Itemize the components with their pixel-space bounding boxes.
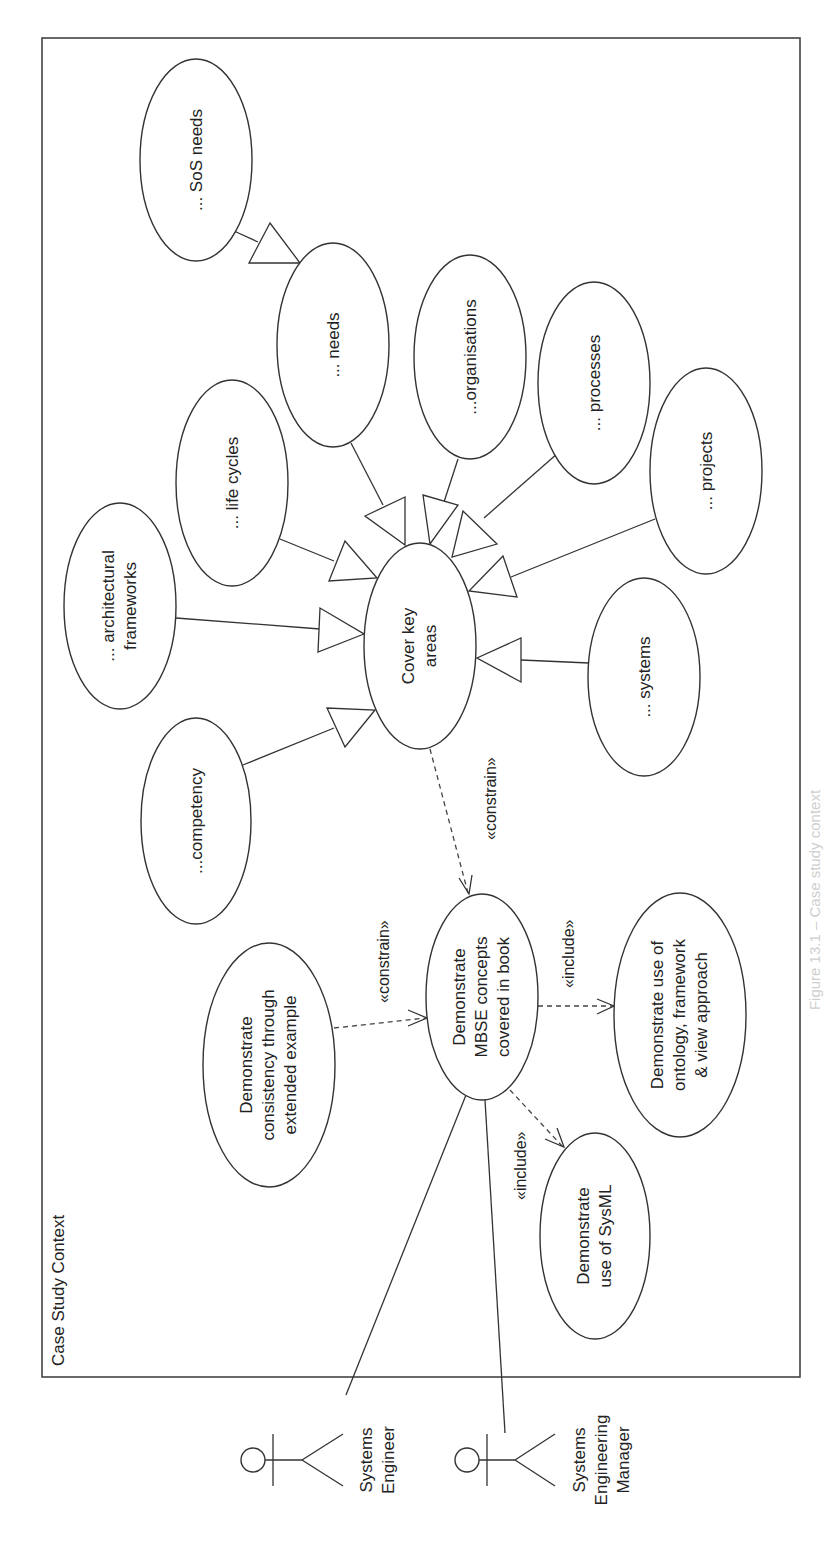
actor-label-line3: Manager	[614, 1426, 633, 1493]
frame-title: Case Study Context	[49, 1215, 68, 1366]
use-case-label: ... processes	[585, 335, 604, 431]
use-case-label-line1: Demonstrate	[237, 1016, 256, 1113]
actor-systems-engineer[interactable]: Systems Engineer	[241, 1426, 398, 1494]
use-case-label: ... projects	[697, 432, 716, 510]
actor-systems-engineering-manager[interactable]: Systems Engineering Manager	[455, 1415, 633, 1506]
constrain-label-cover: «constrain»	[482, 757, 499, 840]
stick-figure-icon	[241, 1434, 343, 1486]
use-case-label-line2: consistency through	[259, 989, 278, 1140]
use-case-label: ... needs	[324, 312, 343, 377]
include-label-sysml: «include»	[512, 1131, 529, 1200]
use-case-organisations[interactable]: ...organisations	[414, 255, 526, 459]
generalization-organisations-to-cover	[423, 459, 458, 544]
use-case-label-line2: use of SysML	[596, 1185, 615, 1288]
stick-figure-icon	[455, 1434, 555, 1486]
use-case-label: ...organisations	[461, 299, 480, 414]
generalization-frameworks-to-cover	[176, 608, 364, 652]
use-case-consistency[interactable]: Demonstrate consistency through extended…	[203, 943, 335, 1187]
use-case-sysml[interactable]: Demonstrate use of SysML	[540, 1133, 650, 1339]
generalization-life-cycles-to-cover	[280, 539, 377, 581]
dependency-mbse-to-ontology	[538, 999, 614, 1014]
use-case-label-line2: areas	[421, 625, 440, 668]
use-case-label: ...competency	[187, 768, 206, 874]
use-case-label-line1: Cover key	[399, 607, 418, 684]
use-case-processes[interactable]: ... processes	[538, 282, 650, 484]
use-case-sos-needs[interactable]: ... SoS needs	[140, 59, 252, 261]
use-case-label-line3: covered in book	[494, 936, 513, 1057]
association-systems-engineering-manager	[485, 1100, 505, 1433]
association-systems-engineer	[346, 1095, 466, 1395]
use-case-ontology[interactable]: Demonstrate use of ontology, framework &…	[614, 893, 746, 1137]
use-case-label-line1: Demonstrate	[450, 948, 469, 1045]
use-case-label-line2: MBSE concepts	[472, 937, 491, 1058]
use-case-label-line1: Demonstrate	[574, 1187, 593, 1284]
use-case-label-line2: ontology, framework	[670, 939, 689, 1091]
dependency-consistency-to-mbse	[334, 1010, 427, 1028]
generalization-competency-to-cover	[243, 708, 375, 765]
use-case-label: ... life cycles	[223, 437, 242, 530]
figure-caption: Figure 13.1 – Case study context	[806, 789, 823, 1010]
generalization-sos-needs-to-needs	[234, 223, 300, 263]
dependency-cover-to-mbse	[430, 749, 472, 894]
use-case-diagram: Case Study Context	[0, 0, 832, 1556]
actor-label-line2: Engineering	[592, 1415, 611, 1506]
use-case-label-line1: Demonstrate use of	[648, 941, 667, 1090]
actor-label-line2: Engineer	[379, 1426, 398, 1494]
use-case-label: ... systems	[635, 636, 654, 717]
actor-label-line1: Systems	[357, 1427, 376, 1492]
generalization-needs-to-cover	[351, 443, 405, 545]
use-case-competency[interactable]: ...competency	[141, 718, 251, 924]
use-case-mbse-concepts[interactable]: Demonstrate MBSE concepts covered in boo…	[426, 894, 538, 1100]
use-case-label: ... SoS needs	[187, 109, 206, 211]
constrain-label-consistency: «constrain»	[375, 920, 392, 1003]
use-case-label-line1: ... architectural	[99, 550, 118, 662]
use-case-life-cycles[interactable]: ... life cycles	[176, 380, 288, 586]
use-case-cover-key-areas[interactable]: Cover key areas	[364, 543, 476, 749]
generalization-processes-to-cover	[452, 453, 558, 557]
use-case-architectural-frameworks[interactable]: ... architectural frameworks	[64, 503, 176, 709]
use-case-projects[interactable]: ... projects	[650, 368, 762, 574]
use-case-systems[interactable]: ... systems	[588, 578, 700, 776]
use-case-label-line2: frameworks	[121, 562, 140, 650]
generalization-systems-to-cover	[477, 638, 589, 682]
actor-label-line1: Systems	[570, 1427, 589, 1492]
use-case-label-line3: & view approach	[692, 952, 711, 1078]
use-case-needs[interactable]: ... needs	[277, 243, 389, 447]
include-label-ontology: «include»	[560, 919, 577, 988]
use-case-label-line3: extended example	[281, 996, 300, 1135]
